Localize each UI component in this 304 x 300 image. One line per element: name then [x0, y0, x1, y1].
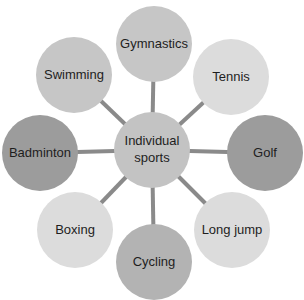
node-label: Gymnastics: [120, 36, 188, 53]
node-boxing: Boxing: [37, 192, 113, 268]
center-label: Individual sports: [125, 133, 180, 167]
node-label: Badminton: [9, 145, 71, 162]
node-label: Tennis: [212, 69, 250, 86]
node-gymnastics: Gymnastics: [116, 6, 192, 82]
node-badminton: Badminton: [2, 115, 78, 191]
node-label: Swimming: [44, 67, 104, 84]
node-label: Cycling: [133, 254, 176, 271]
node-long-jump: Long jump: [194, 192, 270, 268]
node-cycling: Cycling: [116, 224, 192, 300]
center-label-line-1: Individual: [125, 133, 180, 148]
node-label: Boxing: [55, 222, 95, 239]
node-swimming: Swimming: [36, 37, 112, 113]
node-golf: Golf: [227, 115, 303, 191]
node-label: Golf: [253, 145, 277, 162]
center-label-line-2: sports: [134, 150, 169, 165]
center-node-individual-sports: Individual sports: [114, 112, 190, 188]
node-tennis: Tennis: [193, 39, 269, 115]
node-label: Long jump: [202, 222, 263, 239]
